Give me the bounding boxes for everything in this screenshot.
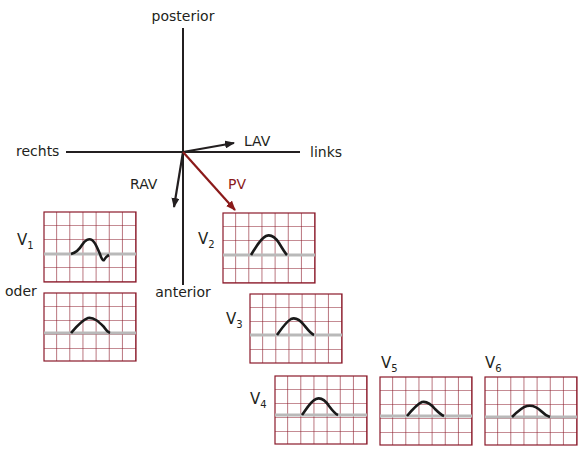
axis-label-anterior: anterior [155, 284, 211, 300]
lead-label-v2: V2 [198, 230, 215, 250]
lead-label-v4: V4 [250, 390, 267, 410]
lav-arrow-icon [183, 143, 234, 152]
label-oder: oder [5, 283, 37, 299]
vector-label-rav: RAV [130, 176, 158, 192]
ecg-panel-v4 [275, 376, 367, 444]
ecg-panel-v2 [223, 213, 315, 283]
ecg-panel-v6 [485, 377, 577, 445]
vector-diagram: posterior anterior rechts links LAV RAV … [0, 0, 579, 450]
lead-label-v6: V6 [485, 354, 502, 374]
axis-label-rechts: rechts [16, 143, 59, 159]
ecg-panel-v3 [250, 294, 342, 363]
axis-label-links: links [310, 144, 342, 160]
lead-label-v3: V3 [226, 310, 243, 330]
vector-label-lav: LAV [244, 133, 271, 149]
ecg-panel-v1 [44, 212, 136, 282]
lead-label-v1: V1 [17, 231, 34, 251]
ecg-panel-v5 [380, 377, 472, 445]
rav-arrow-icon [174, 152, 183, 207]
ecg-panel-v1-alternative [44, 293, 136, 361]
axis-label-posterior: posterior [152, 8, 215, 24]
vector-label-pv: PV [228, 176, 246, 192]
lead-label-v5: V5 [381, 354, 398, 374]
